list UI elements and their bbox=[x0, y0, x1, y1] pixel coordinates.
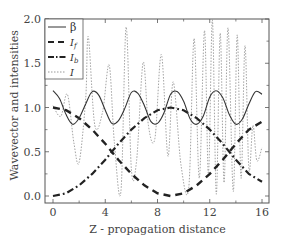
x-tick-label: 12 bbox=[203, 206, 217, 219]
y-tick-label: 0.5 bbox=[24, 146, 42, 159]
y-tick-label: 2.0 bbox=[24, 13, 42, 26]
line-chart: 04812160.00.51.01.52.0 β If Ib I bbox=[0, 0, 284, 246]
plot-series bbox=[53, 20, 262, 196]
x-tick-label: 16 bbox=[255, 206, 269, 219]
legend-label-beta: β bbox=[70, 21, 76, 34]
x-tick-label: 4 bbox=[102, 206, 109, 219]
y-tick-label: 0.0 bbox=[24, 190, 42, 203]
y-axis-label: Wavevector and intensities bbox=[8, 41, 21, 181]
y-tick-label: 1.5 bbox=[24, 57, 42, 70]
x-tick-label: 0 bbox=[50, 206, 57, 219]
y-tick-label: 1.0 bbox=[24, 102, 42, 115]
legend-box bbox=[45, 19, 83, 79]
legend: β If Ib I bbox=[45, 19, 83, 79]
x-axis-label: Z - propagation distance bbox=[53, 223, 262, 236]
x-tick-label: 8 bbox=[154, 206, 161, 219]
